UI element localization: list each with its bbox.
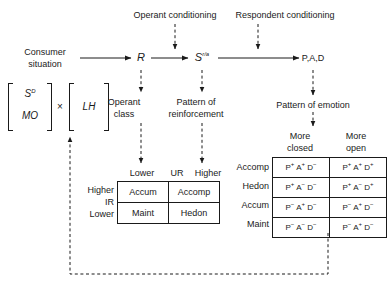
- node-stimulus: Sr/a: [195, 52, 209, 63]
- node-sd-base: S: [24, 88, 31, 99]
- operant-class-matrix: Accum Accomp Maint Hedon: [117, 181, 220, 224]
- code-sign: +: [301, 201, 305, 207]
- table-row: P+ A− D−P+ A− D+: [273, 178, 387, 198]
- code-sign: −: [313, 221, 317, 227]
- table-row: Accum Accomp: [118, 182, 220, 203]
- code-sign: −: [313, 201, 317, 207]
- cell-hedon-more-closed: P+ A− D−: [273, 178, 330, 198]
- label-respondent-conditioning: Respondent conditioning: [235, 10, 334, 21]
- code-sign: −: [301, 181, 305, 187]
- label-pattern-reinforcement-line1: Pattern of: [176, 97, 215, 108]
- table-row: Maint Hedon: [118, 203, 220, 224]
- code-sign: +: [348, 161, 352, 167]
- left-matrix-row-higher: Higher: [87, 185, 114, 196]
- node-pad-outcome: P,A,D: [302, 53, 324, 64]
- emotion-pattern-matrix: P+ A+ D−P+ A+ D+P+ A− D−P+ A− D+P− A+ D−…: [272, 157, 387, 238]
- right-matrix-row-label-accum: Accum: [241, 200, 269, 211]
- code-sign: −: [313, 161, 317, 167]
- right-matrix-col-closed-line2: closed: [287, 143, 313, 154]
- right-matrix-row-label-accomp: Accomp: [236, 162, 269, 173]
- code-sign: −: [313, 181, 317, 187]
- label-pattern-reinforcement-line2: reinforcement: [168, 109, 223, 120]
- cell-accum-more-closed: P− A+ D−: [273, 198, 330, 218]
- node-motivating-operation: MO: [22, 110, 38, 121]
- label-pattern-emotion: Pattern of emotion: [276, 100, 350, 111]
- code-sign: +: [358, 221, 362, 227]
- node-consumer-situation-line2: situation: [28, 59, 62, 70]
- table-row: P+ A+ D−P+ A+ D+: [273, 158, 387, 178]
- right-matrix-row-label-hedon: Hedon: [242, 181, 269, 192]
- code-sign: +: [358, 161, 362, 167]
- cell-hedon-more-open: P+ A− D+: [330, 178, 387, 198]
- left-matrix-col-lower: Lower: [130, 168, 155, 179]
- code-sign: −: [370, 201, 374, 207]
- node-sd-superscript: D: [31, 88, 35, 94]
- node-response: R: [137, 52, 145, 63]
- code-sign: +: [301, 161, 305, 167]
- code-sign: −: [291, 221, 295, 227]
- label-operant-conditioning: Operant conditioning: [133, 10, 216, 21]
- operator-multiply: ×: [57, 101, 63, 112]
- connector-layer: [0, 0, 391, 296]
- cell-hedon: Hedon: [169, 203, 220, 224]
- node-discriminative-stimulus: SD: [24, 88, 35, 99]
- label-operant-class-line1: Operant: [108, 97, 141, 108]
- left-matrix-row-lower: Lower: [89, 209, 114, 220]
- code-sign: +: [291, 161, 295, 167]
- code-sign: −: [358, 181, 362, 187]
- left-matrix-col-higher: Higher: [195, 168, 222, 179]
- label-operant-class-line2: class: [114, 109, 135, 120]
- code-sign: +: [370, 181, 374, 187]
- code-sign: +: [291, 181, 295, 187]
- cell-accomp: Accomp: [169, 182, 220, 203]
- right-matrix-row-label-maint: Maint: [247, 219, 269, 230]
- code-sign: +: [370, 161, 374, 167]
- left-matrix-axis-ir: IR: [105, 197, 114, 208]
- diagram-canvas: Operant conditioning Respondent conditio…: [0, 0, 391, 296]
- right-matrix-col-open-line2: open: [346, 143, 366, 154]
- code-sign: +: [358, 201, 362, 207]
- code-sign: −: [348, 201, 352, 207]
- code-sign: −: [291, 201, 295, 207]
- table-row: P− A+ D−P− A+ D−: [273, 198, 387, 218]
- cell-maint-more-open: P− A+ D−: [330, 218, 387, 238]
- right-matrix-col-closed-line1: More: [290, 131, 311, 142]
- cell-accum-more-open: P− A+ D−: [330, 198, 387, 218]
- cell-accum: Accum: [118, 182, 169, 203]
- cell-maint-more-closed: P− A− D−: [273, 218, 330, 238]
- code-sign: +: [348, 181, 352, 187]
- code-sign: −: [301, 221, 305, 227]
- cell-accomp-more-closed: P+ A+ D−: [273, 158, 330, 178]
- code-sign: −: [370, 221, 374, 227]
- node-stimulus-superscript: r/a: [202, 51, 209, 57]
- table-row: P− A− D−P− A+ D−: [273, 218, 387, 238]
- right-matrix-col-open-line1: More: [346, 131, 367, 142]
- cell-maint: Maint: [118, 203, 169, 224]
- node-consumer-situation-line1: Consumer: [24, 47, 66, 58]
- node-learning-history: LH: [83, 101, 96, 112]
- left-matrix-axis-ur: UR: [171, 168, 184, 179]
- cell-accomp-more-open: P+ A+ D+: [330, 158, 387, 178]
- code-sign: −: [348, 221, 352, 227]
